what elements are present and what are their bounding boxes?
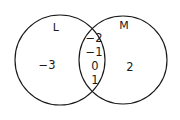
element-intersection-2: −1	[86, 47, 103, 59]
set-label-m: M	[119, 20, 129, 31]
element-intersection-1: −2	[86, 33, 103, 45]
element-left-only-1: −3	[39, 60, 56, 72]
venn-diagram: L M −3 −2 −1 0 1 2	[0, 0, 180, 120]
venn-circles-graphic	[0, 0, 180, 120]
set-label-l: L	[53, 22, 59, 33]
element-intersection-3: 0	[91, 61, 98, 73]
element-right-only-1: 2	[126, 62, 133, 74]
element-intersection-4: 1	[91, 75, 98, 87]
